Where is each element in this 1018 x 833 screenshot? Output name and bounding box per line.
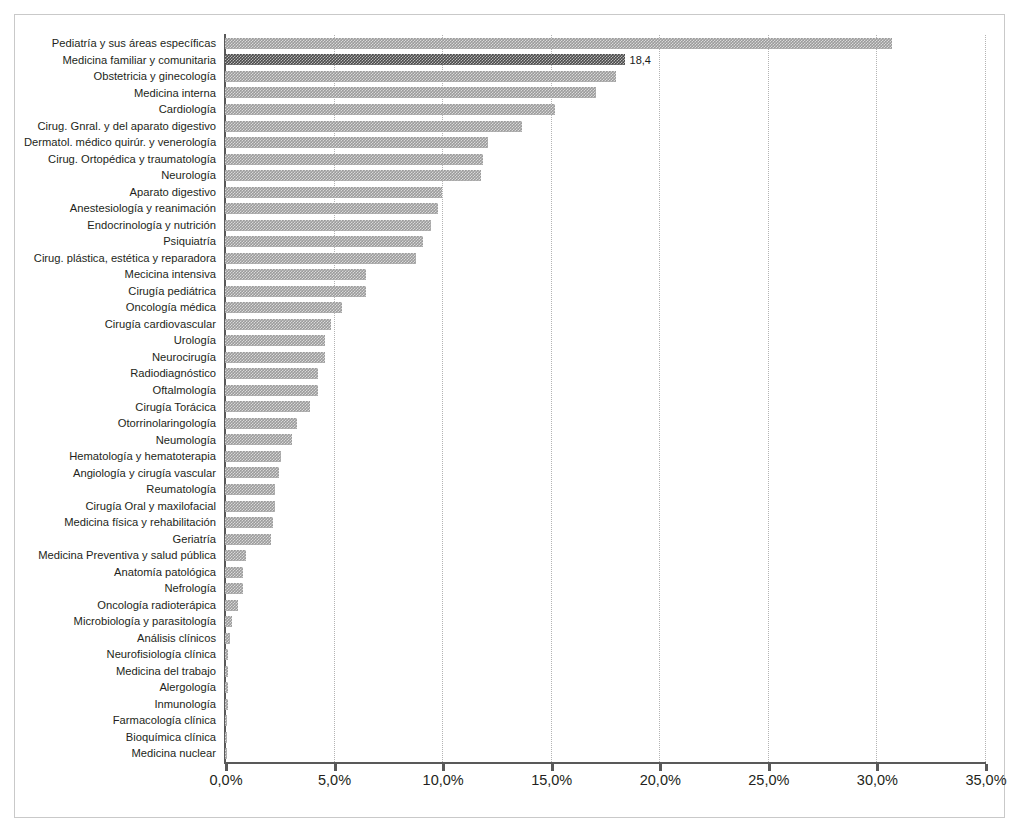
chart-figure: Pediatría y sus áreas específicasMedicin…	[14, 14, 1005, 818]
bar[interactable]	[225, 104, 555, 115]
bar[interactable]	[225, 87, 596, 98]
bar[interactable]	[225, 385, 318, 396]
category-label: Medicina Preventiva y salud pública	[24, 547, 224, 564]
bar[interactable]	[225, 666, 228, 677]
bar-row	[225, 415, 985, 432]
category-label: Anestesiología y reanimación	[24, 200, 224, 217]
bar[interactable]	[225, 418, 297, 429]
bar-row	[225, 531, 985, 548]
bar[interactable]	[225, 534, 271, 545]
bar-row	[225, 613, 985, 630]
x-tick-label: 5,0%	[318, 772, 351, 788]
bar[interactable]	[225, 286, 366, 297]
category-label: Reumatología	[24, 481, 224, 498]
category-label: Alergología	[24, 679, 224, 696]
bar-row	[225, 514, 985, 531]
bar[interactable]	[225, 137, 488, 148]
category-label: Angiología y cirugía vascular	[24, 465, 224, 482]
bar[interactable]	[225, 319, 331, 330]
bar-row	[225, 85, 985, 102]
category-label: Medicina del trabajo	[24, 663, 224, 680]
bar-row	[225, 349, 985, 366]
bar[interactable]	[225, 253, 416, 264]
category-label: Dermatol. médico quirúr. y venerología	[24, 134, 224, 151]
bar-row	[225, 729, 985, 746]
bar-row	[225, 498, 985, 515]
bar-row	[225, 597, 985, 614]
bar[interactable]	[225, 583, 243, 594]
category-label: Endocrinología y nutrición	[24, 217, 224, 234]
bar[interactable]	[225, 269, 366, 280]
bar[interactable]	[225, 467, 279, 478]
category-label: Análisis clínicos	[24, 630, 224, 647]
bar-value-label: 18,4	[630, 53, 651, 67]
bar-row	[225, 696, 985, 713]
x-tick-mark	[876, 764, 879, 771]
bar-row	[225, 679, 985, 696]
bar[interactable]	[225, 203, 438, 214]
bar[interactable]	[225, 401, 310, 412]
category-label: Bioquímica clínica	[24, 729, 224, 746]
bar-row	[225, 250, 985, 267]
bar[interactable]	[225, 484, 275, 495]
bar[interactable]	[225, 649, 228, 660]
bar[interactable]	[225, 121, 522, 132]
category-label: Medicina física y rehabilitación	[24, 514, 224, 531]
x-tick-mark	[442, 764, 445, 771]
category-label: Neurocirugía	[24, 349, 224, 366]
bar[interactable]	[225, 154, 483, 165]
bar[interactable]	[225, 220, 431, 231]
bar-row	[225, 547, 985, 564]
bar[interactable]	[225, 451, 281, 462]
x-tick-label: 25,0%	[748, 772, 789, 788]
category-label: Cirug. Ortopédica y traumatología	[24, 151, 224, 168]
bar[interactable]	[225, 682, 228, 693]
bar-row	[225, 151, 985, 168]
bar[interactable]	[225, 38, 892, 49]
bar[interactable]	[225, 368, 318, 379]
bar[interactable]	[225, 501, 275, 512]
bar[interactable]	[225, 600, 238, 611]
bar-row	[225, 316, 985, 333]
bar[interactable]	[225, 732, 227, 743]
category-label: Cirug. plástica, estética y reparadora	[24, 250, 224, 267]
x-tick-label: 10,0%	[423, 772, 464, 788]
bar[interactable]	[225, 170, 481, 181]
bar[interactable]	[225, 748, 227, 759]
bar-row	[225, 101, 985, 118]
gridline	[985, 35, 987, 762]
bar-row	[225, 118, 985, 135]
bar[interactable]	[225, 54, 625, 65]
bar[interactable]	[225, 187, 442, 198]
bar-row	[225, 564, 985, 581]
bar-row	[225, 663, 985, 680]
bar-row	[225, 184, 985, 201]
category-label: Pediatría y sus áreas específicas	[24, 35, 224, 52]
category-label: Geriatría	[24, 531, 224, 548]
bar-row	[225, 217, 985, 234]
bar-row	[225, 448, 985, 465]
x-tick-mark	[985, 764, 988, 771]
category-label: Oncología médica	[24, 299, 224, 316]
bar-row	[225, 382, 985, 399]
bar[interactable]	[225, 550, 246, 561]
bar[interactable]	[225, 335, 325, 346]
bar[interactable]	[225, 715, 227, 726]
bar[interactable]	[225, 236, 423, 247]
bar[interactable]	[225, 633, 230, 644]
bar-row	[225, 332, 985, 349]
bar[interactable]	[225, 352, 325, 363]
bar[interactable]	[225, 434, 292, 445]
bar[interactable]	[225, 567, 243, 578]
x-tick-mark	[334, 764, 337, 771]
bar[interactable]	[225, 699, 228, 710]
bar[interactable]	[225, 302, 342, 313]
x-tick-mark	[225, 764, 228, 771]
bar[interactable]	[225, 517, 273, 528]
bar[interactable]	[225, 71, 616, 82]
bar-row	[225, 167, 985, 184]
bar-row	[225, 646, 985, 663]
category-label: Medicina nuclear	[24, 745, 224, 762]
bar[interactable]	[225, 616, 232, 627]
category-label: Nefrología	[24, 580, 224, 597]
